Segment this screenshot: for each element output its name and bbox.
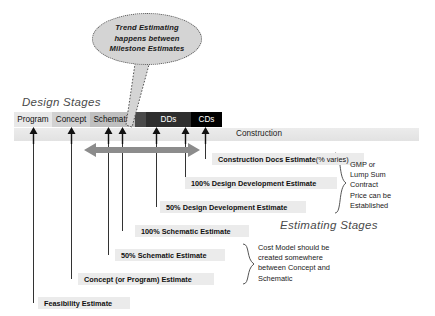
trend-estimating-span-arrow (84, 142, 200, 158)
gmp-note-line-1: GMP or (350, 160, 391, 170)
cost-model-note: Cost Model should be created somewhere b… (258, 243, 330, 284)
dd-50-estimate: 50% Design Development Estimate (160, 201, 306, 213)
stage-segment-label: Concept (56, 115, 87, 124)
diagram-annotations: Construction Docs Estimate (% varies)100… (0, 0, 435, 316)
callout-tail (110, 55, 160, 130)
leader-line-schematic-50-estimate (108, 144, 109, 255)
milestone-arrow-3 (104, 127, 113, 144)
construction-phase-label: Construction (236, 129, 282, 138)
milestone-arrow-5 (152, 127, 161, 144)
gmp-note-line-5: Established (350, 201, 391, 211)
leader-line-construction-docs-estimate (205, 144, 206, 159)
schematic-50-estimate: 50% Schematic Estimate (115, 249, 225, 261)
dd-50-estimate-label: 50% Design Development Estimate (166, 203, 287, 212)
construction-docs-estimate-suffix: (% varies) (316, 155, 349, 164)
cost-model-note-line-1: Cost Model should be (258, 243, 330, 253)
callout-line-3: Milestone Estimates (110, 44, 185, 55)
dd-100-estimate-label: 100% Design Development Estimate (191, 179, 316, 188)
gmp-note-line-3: Contract (350, 180, 391, 190)
schematic-50-estimate-label: 50% Schematic Estimate (121, 251, 207, 260)
cost-model-note-line-3: between Concept and (258, 263, 330, 273)
schematic-100-estimate-label: 100% Schematic Estimate (141, 227, 231, 236)
cost-model-brace (242, 243, 255, 285)
leader-line-concept-program-estimate (71, 144, 72, 279)
gmp-note: GMP or Lump Sum Contract Price can be Es… (350, 160, 391, 211)
cost-model-note-line-2: created somewhere (258, 253, 330, 263)
callout-text: Trend Estimating happens between Milesto… (110, 23, 185, 55)
milestone-arrow-7 (201, 127, 210, 144)
feasibility-estimate: Feasibility Estimate (38, 297, 130, 309)
milestone-arrow-1 (29, 127, 38, 144)
concept-program-estimate-label: Concept (or Program) Estimate (84, 275, 192, 284)
callout-line-2: happens between (110, 34, 185, 45)
stage-segment-label: CDs (199, 115, 215, 124)
stage-segment-label: DDs (161, 115, 177, 124)
leader-line-feasibility-estimate (33, 144, 34, 303)
stage-segment-cds: CDs (191, 112, 222, 127)
construction-docs-estimate-label: Construction Docs Estimate (218, 155, 316, 164)
dd-100-estimate: 100% Design Development Estimate (185, 177, 337, 189)
gmp-note-line-4: Price can be (350, 191, 391, 201)
trend-estimating-callout: Trend Estimating happens between Milesto… (92, 13, 202, 65)
milestone-arrow-4 (118, 127, 127, 144)
cost-model-note-line-4: Schematic (258, 274, 330, 284)
construction-docs-estimate: Construction Docs Estimate (% varies) (212, 153, 364, 165)
stage-segment-label: Program (17, 115, 48, 124)
stage-segment-program: Program (14, 112, 52, 127)
feasibility-estimate-label: Feasibility Estimate (44, 299, 112, 308)
milestone-arrow-2 (67, 127, 76, 144)
callout-line-1: Trend Estimating (110, 23, 185, 34)
diagram-canvas: Construction Trend Estimating happens be… (0, 0, 435, 316)
gmp-note-line-2: Lump Sum (350, 170, 391, 180)
milestone-arrow-6 (181, 127, 190, 144)
concept-program-estimate: Concept (or Program) Estimate (78, 273, 214, 285)
schematic-100-estimate: 100% Schematic Estimate (135, 225, 249, 237)
stage-segment-concept: Concept (52, 112, 90, 127)
